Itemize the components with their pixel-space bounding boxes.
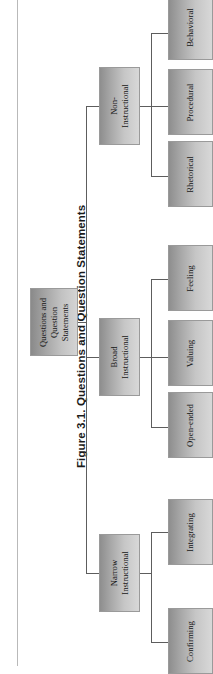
connector-bus-broad-instructional	[151, 279, 152, 427]
node-feeling-label: Feeling	[185, 265, 196, 291]
node-broad-instructional[interactable]: BroadInstructional	[99, 318, 140, 396]
node-narrow-instructional-label: NarrowInstructional	[109, 551, 131, 594]
connector-bus-non-instructional	[151, 33, 152, 176]
node-behavioral-label: Behavioral	[185, 8, 196, 47]
node-open-ended[interactable]: Open-ended	[168, 392, 213, 458]
node-confirming[interactable]: Confirming	[168, 608, 213, 674]
connector-trunk-to-broad-instructional	[86, 357, 99, 358]
connector-trunk-to-narrow-instructional	[86, 573, 99, 574]
node-integrating-label: Integrating	[185, 513, 196, 552]
node-confirming-label: Confirming	[185, 620, 196, 661]
node-non-instructional[interactable]: Non-Instructional	[99, 67, 140, 145]
connector-to-open-ended	[151, 427, 169, 428]
node-procedural[interactable]: Procedural	[168, 69, 213, 135]
node-root-label: Questions andQuestionStatements	[38, 298, 71, 347]
node-broad-instructional-label: BroadInstructional	[109, 335, 131, 378]
node-valuing-label: Valuing	[185, 339, 196, 366]
node-open-ended-label: Open-ended	[185, 404, 196, 447]
node-root[interactable]: Questions andQuestionStatements	[30, 288, 78, 356]
node-rhetorical-label: Rhetorical	[185, 156, 196, 193]
node-valuing[interactable]: Valuing	[168, 320, 213, 386]
connector-to-confirming	[151, 642, 169, 643]
node-feeling[interactable]: Feeling	[168, 245, 213, 311]
node-behavioral[interactable]: Behavioral	[168, 0, 213, 60]
node-rhetorical[interactable]: Rhetorical	[168, 141, 213, 207]
connector-to-rhetorical	[151, 176, 169, 177]
node-narrow-instructional[interactable]: NarrowInstructional	[99, 534, 140, 612]
connector-bus-narrow-instructional	[151, 532, 152, 642]
connector-to-behavioral	[151, 33, 169, 34]
connector-trunk-to-non-instructional	[86, 106, 99, 107]
connector-to-feeling	[151, 279, 169, 280]
connector-to-valuing	[151, 357, 169, 358]
connector-to-integrating	[151, 532, 169, 533]
connector-to-procedural	[151, 106, 169, 107]
node-integrating[interactable]: Integrating	[168, 499, 213, 565]
node-procedural-label: Procedural	[185, 83, 196, 121]
node-non-instructional-label: Non-Instructional	[109, 84, 131, 127]
connector-trunk	[86, 106, 87, 573]
page-rule-divider	[17, 0, 18, 666]
